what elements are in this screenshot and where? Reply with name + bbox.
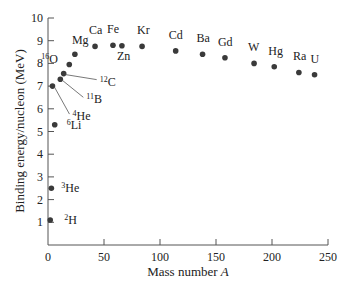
point-marker <box>173 48 179 54</box>
data-point-ca: Ca <box>89 23 103 49</box>
point-marker <box>66 62 72 68</box>
y-tick-label: 1 <box>37 215 43 229</box>
y-tick-label: 2 <box>37 193 43 207</box>
data-point-gd: Gd <box>218 35 233 61</box>
x-axis-label: Mass number A <box>147 264 229 279</box>
point-marker <box>222 55 228 61</box>
data-point-ra: Ra <box>293 49 307 75</box>
y-tick-label: 7 <box>37 79 43 93</box>
y-tick-label: 10 <box>31 11 43 25</box>
point-marker <box>296 70 302 76</box>
data-point-mg: Mg <box>72 33 89 57</box>
point-marker <box>50 83 56 89</box>
data-point-16o: 16O <box>41 52 72 68</box>
point-label: 11B <box>86 92 102 106</box>
point-label: 12C <box>100 75 116 89</box>
data-point-11b: 11B <box>58 76 103 106</box>
point-label: Zn <box>117 49 130 63</box>
point-marker <box>49 185 55 191</box>
point-marker <box>312 72 318 78</box>
point-marker <box>58 76 64 82</box>
point-label: Hg <box>268 44 283 58</box>
y-tick-label: 9 <box>37 34 43 48</box>
point-marker <box>72 52 78 58</box>
point-label: Ra <box>293 49 307 63</box>
point-marker <box>200 52 206 58</box>
point-marker <box>119 43 125 49</box>
plot-area: 12345678910050100150200250 2H3He4He6Li11… <box>0 0 352 283</box>
point-label: Ca <box>89 23 103 37</box>
point-label: W <box>248 40 260 54</box>
x-tick-label: 200 <box>263 250 281 264</box>
point-marker <box>110 42 116 48</box>
y-axis-label: Binding energy/nucleon (MeV) <box>12 49 27 213</box>
data-point-zn: Zn <box>117 43 130 63</box>
data-point-w: W <box>248 40 260 66</box>
point-label: U <box>311 52 320 66</box>
data-point-u: U <box>311 52 320 78</box>
data-point-2h: 2H <box>47 213 77 227</box>
y-tick-label: 3 <box>37 170 43 184</box>
x-tick-label: 250 <box>319 250 337 264</box>
leader-line <box>66 75 97 80</box>
point-marker <box>271 64 277 70</box>
x-tick-label: 150 <box>207 250 225 264</box>
data-point-kr: Kr <box>137 23 150 49</box>
x-tick-label: 100 <box>151 250 169 264</box>
point-marker <box>47 217 53 223</box>
point-marker <box>61 71 67 77</box>
data-points: 2H3He4He6Li11B12C16OMgCaFeZnKrCdBaGdWHgR… <box>41 22 319 227</box>
point-marker <box>251 61 257 67</box>
leader-line <box>62 80 83 97</box>
data-point-hg: Hg <box>268 44 283 70</box>
point-label: Kr <box>137 23 150 37</box>
point-label: 16O <box>41 52 58 66</box>
data-point-6li: 6Li <box>52 118 82 132</box>
x-tick-label: 0 <box>45 250 51 264</box>
data-point-3he: 3He <box>49 181 80 195</box>
y-tick-label: 5 <box>37 125 43 139</box>
point-label: Gd <box>218 35 233 49</box>
leader-line <box>54 87 69 114</box>
point-label: Mg <box>72 33 89 47</box>
x-tick-label: 50 <box>98 250 110 264</box>
point-label: 2H <box>64 213 77 227</box>
data-point-ba: Ba <box>197 31 211 57</box>
point-label: Fe <box>107 22 119 36</box>
data-point-cd: Cd <box>169 28 183 54</box>
binding-energy-chart: 12345678910050100150200250 2H3He4He6Li11… <box>0 0 352 283</box>
point-marker <box>139 44 145 50</box>
point-label: Cd <box>169 28 183 42</box>
point-label: 3He <box>61 181 79 195</box>
y-tick-label: 6 <box>37 102 43 116</box>
point-label: 6Li <box>67 118 82 132</box>
point-marker <box>92 44 98 50</box>
point-label: Ba <box>197 31 211 45</box>
data-point-fe: Fe <box>107 22 119 48</box>
point-marker <box>52 122 58 128</box>
y-tick-label: 4 <box>37 147 43 161</box>
